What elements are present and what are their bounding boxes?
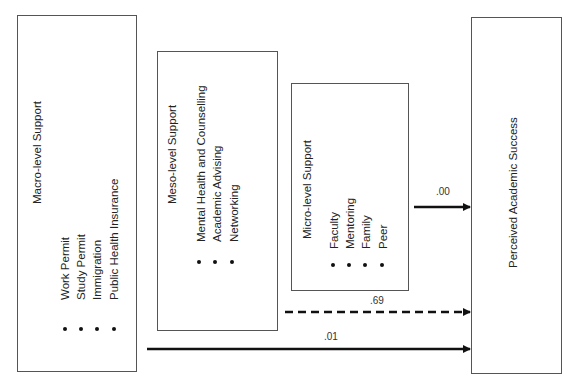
edge-label-meso: .69	[370, 295, 384, 306]
edge-label-micro: .00	[436, 186, 450, 197]
edge-label-macro: .01	[324, 331, 338, 342]
path-arrows	[0, 0, 576, 382]
